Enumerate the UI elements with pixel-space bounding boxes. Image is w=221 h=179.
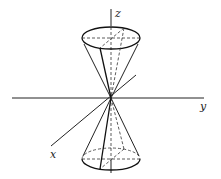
double-cone-diagram: z y x bbox=[0, 0, 221, 179]
z-axis-label: z bbox=[114, 7, 121, 20]
y-axis-label: y bbox=[199, 100, 207, 113]
lower-generator-right bbox=[111, 98, 139, 156]
upper-generator-right bbox=[111, 44, 138, 98]
x-axis-label: x bbox=[50, 148, 57, 161]
upper-generator-front bbox=[100, 48, 111, 98]
lower-generator-back bbox=[111, 98, 124, 149]
upper-generator-left bbox=[84, 44, 111, 98]
upper-generator-back bbox=[111, 28, 124, 98]
diagram-canvas: z y x bbox=[0, 0, 221, 179]
